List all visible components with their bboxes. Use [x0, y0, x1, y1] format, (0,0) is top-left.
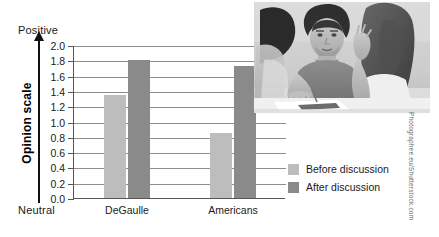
y-axis-tick	[68, 61, 74, 62]
y-axis-tick-label: 0.2	[50, 178, 65, 190]
y-axis-title: Opinion scale	[20, 68, 34, 178]
legend-swatch-before-icon	[288, 164, 299, 175]
legend-swatch-after-icon	[288, 182, 299, 193]
legend-item-before: Before discussion	[288, 163, 389, 175]
y-axis-tick-label: 1.0	[50, 117, 65, 129]
y-axis-tick-label: 1.6	[50, 71, 65, 83]
y-axis-tick	[68, 153, 74, 154]
y-axis-tick-label: 0.0	[50, 193, 65, 205]
y-axis-tick-label: 1.2	[50, 101, 65, 113]
y-axis-tick	[68, 168, 74, 169]
y-axis-tick-label: 0.6	[50, 147, 65, 159]
opinion-scale-arrow-icon	[38, 40, 40, 203]
y-axis-tick	[68, 92, 74, 93]
y-axis-tick	[68, 77, 74, 78]
legend: Before discussion After discussion	[288, 163, 389, 199]
x-axis-category-label: Americans	[208, 204, 258, 216]
y-axis-tick-label: 2.0	[50, 40, 65, 52]
y-axis-tick	[68, 184, 74, 185]
discussion-photo	[254, 2, 430, 113]
axis-neutral-label: Neutral	[18, 204, 55, 216]
x-axis-category-label: DeGaulle	[105, 204, 149, 216]
y-axis-tick-label: 1.8	[50, 55, 65, 67]
y-axis-tick	[68, 199, 74, 200]
y-axis-tick	[68, 46, 74, 47]
opinion-scale-bar-chart: Positive Neutral Opinion scale 2.01.81.6…	[0, 0, 439, 237]
y-axis-tick	[68, 123, 74, 124]
bar-degaulle-after	[128, 60, 150, 198]
legend-item-after: After discussion	[288, 181, 389, 193]
y-axis-tick-label: 1.4	[50, 86, 65, 98]
y-axis-tick-label: 0.4	[50, 162, 65, 174]
bar-americans-before	[210, 133, 232, 198]
legend-label-before: Before discussion	[306, 163, 389, 175]
y-axis-tick-label: 0.8	[50, 132, 65, 144]
image-credit: Photographee.eu/Shutterstock.com	[408, 112, 415, 232]
bar-americans-after	[234, 66, 256, 198]
bar-degaulle-before	[104, 95, 126, 198]
y-axis-tick	[68, 138, 74, 139]
y-axis-tick	[68, 107, 74, 108]
legend-label-after: After discussion	[306, 181, 380, 193]
